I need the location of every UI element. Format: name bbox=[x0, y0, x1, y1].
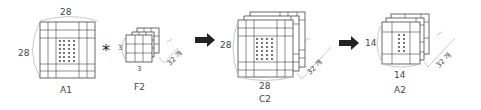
cnn-diagram: 28 28 A1 * 3 3 ... 32 개 F2 bbox=[0, 0, 481, 110]
stage-label-c2: C2 bbox=[259, 94, 271, 104]
width-brace-a1 bbox=[40, 17, 98, 22]
width-label-f2: 3 bbox=[137, 65, 141, 73]
right-arrow-icon bbox=[339, 36, 359, 50]
stage-label-a1: A1 bbox=[60, 85, 72, 95]
height-label-c2: 28 bbox=[220, 40, 232, 50]
height-label-f2: 3 bbox=[118, 44, 122, 52]
filter-front bbox=[126, 35, 152, 62]
stage-a1: 28 28 A1 bbox=[18, 7, 98, 95]
stage-label-a2: A2 bbox=[394, 85, 406, 95]
depth-label-c2: 32 개 bbox=[305, 58, 323, 76]
stage-f2: 3 3 ... 32 개 F2 bbox=[118, 28, 184, 92]
width-label-a2: 14 bbox=[394, 70, 406, 80]
right-arrow-icon bbox=[195, 33, 215, 47]
stage-label-f2: F2 bbox=[134, 82, 145, 92]
width-brace-a2 bbox=[382, 64, 420, 67]
ellipsis-f2: ... bbox=[163, 34, 173, 44]
width-label-a1: 28 bbox=[60, 7, 72, 17]
convolution-operator-icon: * bbox=[102, 41, 110, 60]
height-brace-c2 bbox=[233, 21, 238, 76]
depth-label-a2: 32 개 bbox=[434, 51, 452, 69]
height-label-a1: 28 bbox=[18, 48, 30, 58]
width-label-c2: 28 bbox=[259, 81, 271, 91]
ellipsis-a2: ... bbox=[433, 27, 443, 37]
feature-map-a2-front bbox=[382, 22, 420, 64]
height-brace-a2 bbox=[377, 23, 382, 63]
height-brace-a1 bbox=[33, 22, 41, 78]
height-brace-f2 bbox=[122, 36, 126, 61]
width-brace-c2 bbox=[238, 77, 293, 81]
height-label-a2: 14 bbox=[365, 38, 377, 48]
stage-c2: 28 28 ... 32 개 C2 bbox=[220, 12, 331, 104]
stage-a2: 14 14 ... 32 개 A2 bbox=[365, 14, 455, 95]
